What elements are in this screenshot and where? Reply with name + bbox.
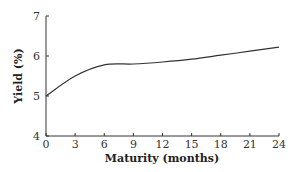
yield-curve-chart: 4567 03691215182124 Yield (%) Maturity (… (0, 0, 297, 172)
x-tick-label: 21 (243, 138, 257, 151)
x-tick-label: 18 (214, 138, 228, 151)
x-tick-label: 24 (272, 138, 286, 151)
y-tick-label: 7 (33, 10, 40, 23)
x-tick-label: 3 (72, 138, 79, 151)
y-tick-label: 5 (33, 90, 40, 103)
y-axis-title: Yield (%) (12, 48, 25, 104)
x-tick-label: 12 (156, 138, 170, 151)
y-tick-label: 4 (33, 130, 40, 143)
x-tick-label: 9 (130, 138, 137, 151)
y-tick-label: 6 (33, 50, 40, 63)
yield-curve-line (46, 47, 279, 96)
x-tick-label: 6 (101, 138, 108, 151)
x-axis-title: Maturity (months) (105, 152, 219, 165)
y-axis-ticks: 4567 (33, 10, 49, 143)
x-tick-label: 0 (43, 138, 50, 151)
x-tick-label: 15 (185, 138, 199, 151)
axes (46, 16, 279, 136)
